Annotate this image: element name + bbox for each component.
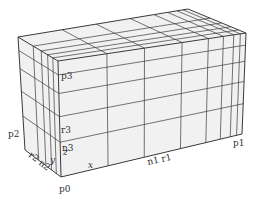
- label-y: y: [49, 155, 56, 165]
- label-p0: p0: [59, 184, 71, 194]
- label-p2: p2: [8, 129, 20, 139]
- label-p3: p3: [61, 71, 73, 81]
- label-p1: p1: [233, 138, 245, 148]
- grid-box-diagram: p3 r3 n3 z x n1 r1 p1 p2 r2 n2 y p0: [0, 0, 253, 199]
- diagram-canvas: p3 r3 n3 z x n1 r1 p1 p2 r2 n2 y p0: [0, 0, 253, 199]
- label-z: z: [62, 147, 68, 157]
- label-r3: r3: [61, 125, 71, 135]
- label-x: x: [88, 160, 93, 170]
